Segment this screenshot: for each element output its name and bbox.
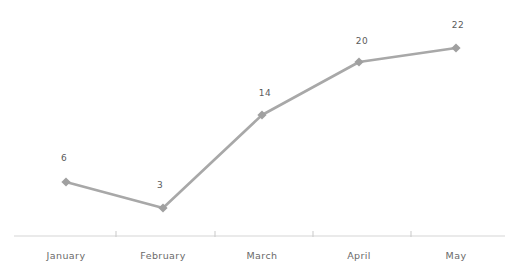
category-label-march: March bbox=[247, 250, 278, 261]
series-markers bbox=[61, 43, 460, 212]
data-label-january: 6 bbox=[61, 153, 67, 163]
data-point-marker-may[interactable] bbox=[451, 43, 460, 52]
x-axis bbox=[14, 231, 505, 237]
category-label-april: April bbox=[347, 250, 371, 261]
data-label-may: 22 bbox=[452, 20, 464, 30]
category-label-february: February bbox=[140, 250, 185, 261]
data-point-marker-january[interactable] bbox=[61, 177, 70, 186]
category-label-january: January bbox=[47, 250, 86, 261]
chart-plot-area bbox=[0, 0, 521, 279]
data-label-april: 20 bbox=[356, 36, 368, 46]
category-label-may: May bbox=[446, 250, 467, 261]
series-line-1 bbox=[66, 48, 456, 208]
line-chart: 63142022 JanuaryFebruaryMarchAprilMay bbox=[0, 0, 521, 279]
data-label-february: 3 bbox=[157, 180, 163, 190]
data-label-march: 14 bbox=[259, 88, 271, 98]
